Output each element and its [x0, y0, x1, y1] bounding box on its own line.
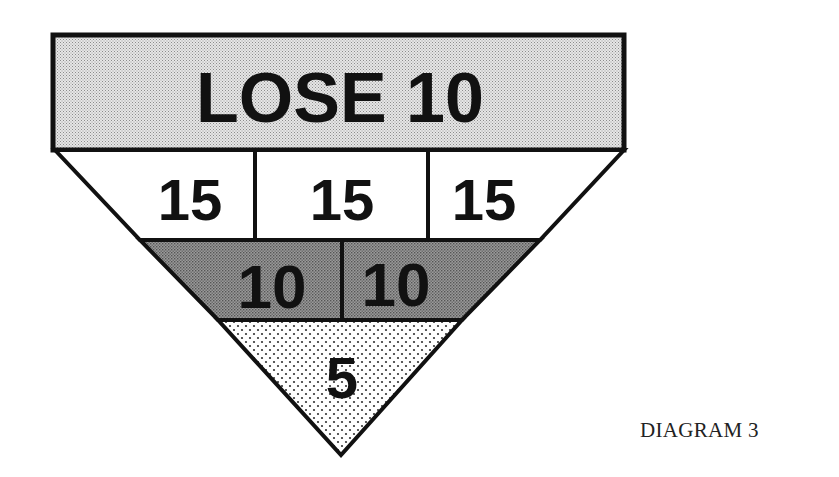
row-10: 10 10	[140, 240, 540, 321]
cell-10-right: 10	[362, 250, 431, 319]
row-5: 5	[218, 320, 462, 455]
cell-15-right: 15	[452, 167, 517, 232]
diagram-caption: DIAGRAM 3	[640, 418, 759, 443]
cell-5: 5	[326, 345, 358, 410]
header-band: LOSE 10	[53, 35, 624, 150]
cell-15-left: 15	[158, 167, 223, 232]
target-diagram: LOSE 10 15 15 15 10 10 5	[0, 0, 839, 477]
cell-15-middle: 15	[310, 167, 375, 232]
header-label: LOSE 10	[196, 59, 484, 137]
row-15: 15 15 15	[55, 150, 624, 240]
cell-10-left: 10	[238, 252, 307, 321]
